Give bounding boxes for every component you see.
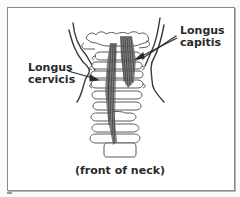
- vertebra-c4: [91, 71, 143, 78]
- label-longus-cervicis-line2: cervicis: [28, 74, 75, 86]
- label-longus-capitis: Longus capitis: [180, 25, 225, 49]
- vertebra-t4: [104, 143, 136, 157]
- page-mark: [7, 192, 12, 194]
- figure-canvas: Longus capitis Longus cervicis (front of…: [0, 0, 240, 197]
- vertebra-c6: [92, 91, 142, 99]
- figure-caption: (front of neck): [0, 164, 240, 177]
- vertebra-c5: [91, 80, 143, 88]
- label-longus-capitis-line2: capitis: [180, 37, 225, 49]
- neck-outline-right: [143, 18, 176, 102]
- label-longus-cervicis: Longus cervicis: [28, 62, 75, 86]
- vertebra-c7: [93, 102, 141, 110]
- atlas-vertebra: [86, 32, 149, 46]
